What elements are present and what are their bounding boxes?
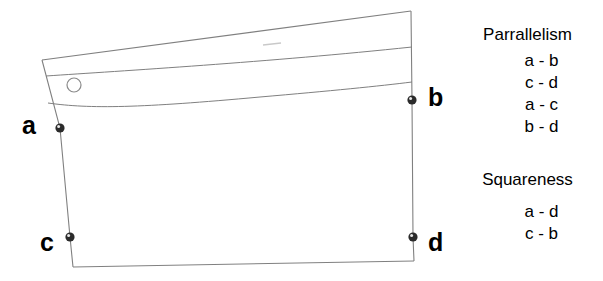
legend-item: a - d xyxy=(483,201,600,223)
legend-item: a - c xyxy=(483,94,600,116)
upper-seam-line xyxy=(46,47,412,76)
legend-item: a - b xyxy=(483,50,600,72)
legend-heading-squareness: Squareness xyxy=(455,169,600,191)
measurement-legend-panel: Parrallelism a - b c - d a - c b - d Squ… xyxy=(455,24,600,245)
legend-item: c - b xyxy=(483,223,600,245)
legend-item: c - d xyxy=(483,72,600,94)
vertex-label-c: c xyxy=(40,230,54,255)
top-curve-highlight-dash xyxy=(263,43,281,45)
legend-heading-parallelism: Parrallelism xyxy=(455,24,600,46)
locating-hole-icon xyxy=(67,78,81,92)
right-vertical-edge xyxy=(411,11,414,261)
legend-group-parallelism: Parrallelism a - b c - d a - c b - d xyxy=(455,24,600,138)
diagram-root: a b c d Parrallelism a - b c - d a - c b… xyxy=(0,0,603,281)
lower-seam-line xyxy=(48,82,412,107)
legend-group-squareness: Squareness a - d c - b xyxy=(455,169,600,245)
legend-items-squareness: a - d c - b xyxy=(455,201,600,245)
legend-items-parallelism: a - b c - d a - c b - d xyxy=(455,50,600,138)
measurement-point-d-marker xyxy=(408,232,417,241)
vertex-label-d: d xyxy=(428,230,443,255)
measurement-point-a-marker xyxy=(55,123,64,132)
measurement-point-c-marker xyxy=(65,232,74,241)
bottom-edge xyxy=(73,261,414,267)
vertex-label-b: b xyxy=(428,85,443,110)
vertex-label-a: a xyxy=(22,113,36,138)
measurement-point-b-marker xyxy=(407,95,416,104)
legend-item: b - d xyxy=(483,116,600,138)
